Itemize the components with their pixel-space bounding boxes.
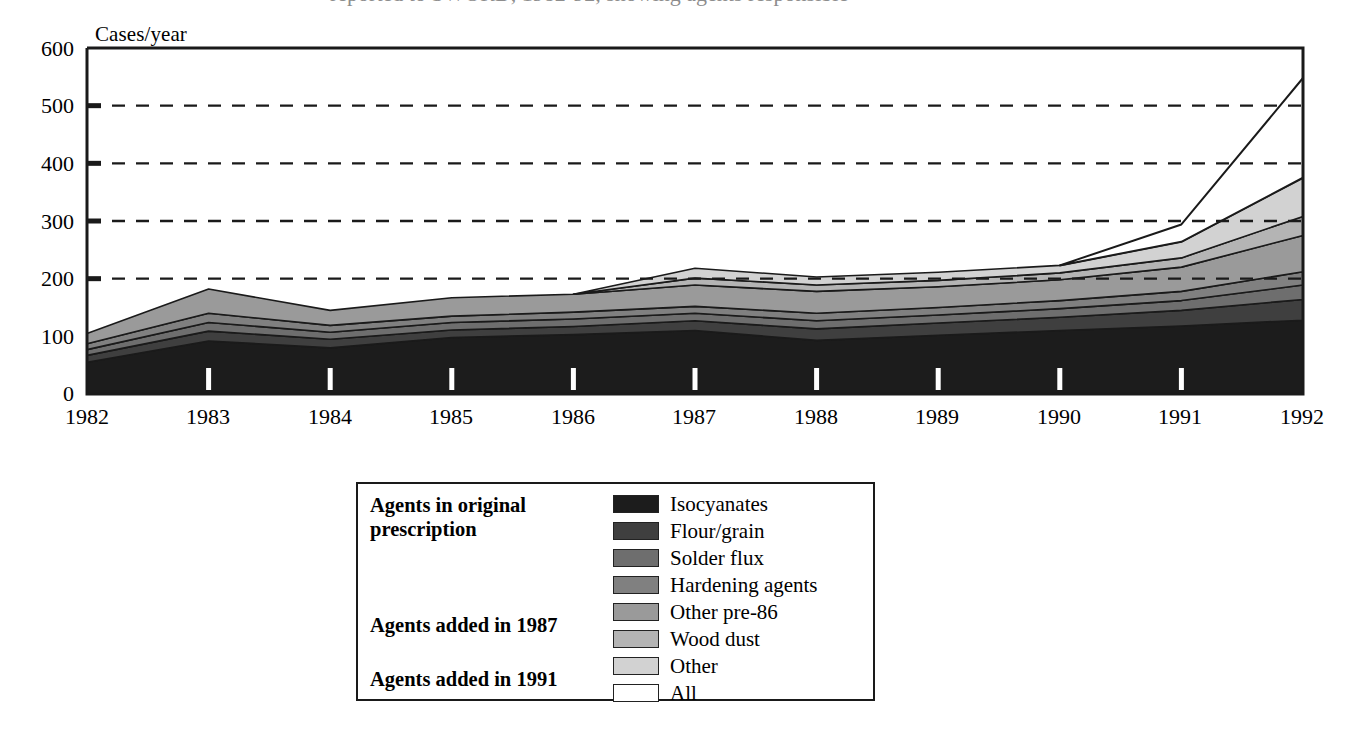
legend-group-label-added-1991: Agents added in 1991 [370,667,557,691]
legend-group-original-line1: Agents in original [370,494,526,516]
legend-swatch-wood-dust [613,630,659,648]
figure-stacked-area-chart: reported to SWORD, 1982-92, showing agen… [0,0,1351,732]
legend-swatch-flour-grain [613,522,659,540]
legend-label-other-pre-86: Other pre-86 [670,601,778,623]
legend-swatch-all [613,684,659,702]
legend-box: Agents in original prescription Agents a… [356,482,875,701]
legend-swatch-other [613,657,659,675]
legend-swatch-solder-flux [613,549,659,567]
legend-swatch-other-pre-86 [613,603,659,621]
chart-svg [0,0,1351,470]
legend-label-isocyanates: Isocyanates [670,493,768,515]
legend-group-original-line2: prescription [370,518,477,540]
chart-plot-region: Cases/year 600 500 400 300 200 100 0 198… [0,0,1351,470]
legend-item-other[interactable]: Other [613,654,718,678]
legend-label-hardening-agents: Hardening agents [670,574,818,596]
legend-swatch-isocyanates [613,495,659,513]
legend-label-all: All [670,682,697,704]
legend-item-flour-grain[interactable]: Flour/grain [613,519,765,543]
legend-item-all[interactable]: All [613,681,697,705]
legend-item-wood-dust[interactable]: Wood dust [613,627,760,651]
legend-label-flour-grain: Flour/grain [670,520,765,542]
stacked-area-bands [87,78,1303,394]
legend-label-solder-flux: Solder flux [670,547,764,569]
legend-group-label-original: Agents in original prescription [370,493,526,541]
legend-item-solder-flux[interactable]: Solder flux [613,546,764,570]
legend-group-label-added-1987: Agents added in 1987 [370,613,557,637]
legend-item-hardening-agents[interactable]: Hardening agents [613,573,818,597]
legend-label-wood-dust: Wood dust [670,628,760,650]
legend-item-other-pre-86[interactable]: Other pre-86 [613,600,778,624]
legend-item-isocyanates[interactable]: Isocyanates [613,492,768,516]
legend-label-other: Other [670,655,718,677]
legend-swatch-hardening-agents [613,576,659,594]
